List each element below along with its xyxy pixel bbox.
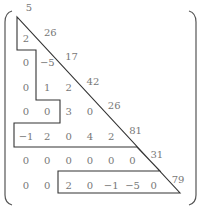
matrix-cell: 26	[104, 100, 124, 112]
matrix-cell: −5	[37, 57, 57, 69]
matrix-cell: 0	[16, 57, 36, 69]
matrix-cell: 26	[40, 27, 60, 39]
matrix-cell: 2	[16, 33, 36, 45]
matrix-cell: 2	[101, 131, 121, 143]
matrix-cell: 31	[147, 149, 167, 161]
matrix-cell: 0	[80, 106, 100, 118]
matrix-cell: 2	[37, 131, 57, 143]
matrix-cell: 0	[101, 155, 121, 167]
matrix-cell: 5	[19, 2, 39, 14]
matrix-cell: 0	[37, 155, 57, 167]
matrix-cell: 0	[144, 180, 164, 192]
matrix-cell: 17	[62, 51, 82, 63]
matrix-cell: 0	[16, 155, 36, 167]
matrix-figure: 52260−51701242003026−1204281000000310020…	[0, 0, 201, 215]
matrix-cell: 0	[59, 131, 79, 143]
matrix-cell: 0	[80, 180, 100, 192]
matrix-cell: 0	[37, 106, 57, 118]
matrix-cell: 0	[123, 155, 143, 167]
matrix-cell: 0	[37, 180, 57, 192]
matrix-cell: 79	[168, 174, 188, 186]
matrix-cell: −5	[123, 180, 143, 192]
matrix-cell: 0	[16, 180, 36, 192]
right-bracket	[189, 11, 196, 205]
matrix-cell: −1	[101, 180, 121, 192]
left-bracket	[5, 11, 12, 205]
matrix-cell: 4	[80, 131, 100, 143]
matrix-cell: 2	[59, 82, 79, 94]
matrix-cell: −1	[16, 131, 36, 143]
matrix-cell: 3	[59, 106, 79, 118]
matrix-cell: 0	[16, 106, 36, 118]
matrix-cell: 0	[59, 155, 79, 167]
matrix-cell: 42	[83, 76, 103, 88]
matrix-cell: 2	[59, 180, 79, 192]
matrix-cell: 0	[16, 82, 36, 94]
matrix-cell: 0	[80, 155, 100, 167]
matrix-cell: 81	[126, 125, 146, 137]
matrix-cell: 1	[37, 82, 57, 94]
